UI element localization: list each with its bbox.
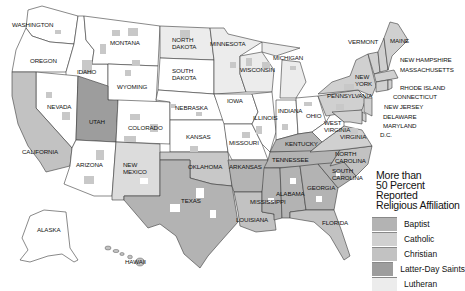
state-label-nevada: NEVADA <box>47 103 72 110</box>
state-label-montana: MONTANA <box>110 39 141 46</box>
state-label-connecticut: CONNECTICUT <box>393 93 437 100</box>
state-label-new-hampshire: NEW HAMPSHIRE <box>400 56 452 63</box>
state-label-rhode-island: RHODE ISLAND <box>400 84 446 91</box>
state-rhode-island <box>388 80 392 90</box>
legend-item-baptist: Baptist <box>372 216 465 231</box>
state-label-idaho: IDAHO <box>77 68 96 75</box>
swatch-christian <box>372 247 397 261</box>
state-arizona <box>64 140 116 196</box>
state-label-oregon: OREGON <box>30 57 57 64</box>
legend-item-lutheran: Lutheran <box>372 276 465 291</box>
state-label-utah: UTAH <box>89 118 105 125</box>
state-label-colorado: COLORADO <box>128 124 163 131</box>
legend-label: Christian <box>404 249 437 259</box>
state-label-louisiana: LOUISIANA <box>236 216 269 223</box>
state-label-arizona: ARIZONA <box>76 161 104 168</box>
state-label-texas: TEXAS <box>181 197 201 204</box>
state-label-alaska: ALASKA <box>37 226 61 233</box>
state-label-washington: WASHINGTON <box>12 21 53 28</box>
legend-label: Lutheran <box>404 279 437 289</box>
state-label-virginia: VIRGINIA <box>340 133 367 140</box>
legend-item-latter-day-saints: Latter-Day Saints <box>372 261 465 276</box>
legend-label: Baptist <box>404 219 430 229</box>
state-label-maine: MAINE <box>390 37 409 44</box>
state-label-georgia: GEORGIA <box>307 184 336 191</box>
state-label-vermont: VERMONT <box>348 38 379 45</box>
state-label-mississippi: MISSISSIPPI <box>250 198 286 205</box>
state-label-maryland: MARYLAND <box>383 122 417 129</box>
state-label-arkansas: ARKANSAS <box>229 163 262 170</box>
legend-label: Latter-Day Saints <box>400 264 465 274</box>
swatch-latter-day-saints <box>372 262 393 276</box>
state-label-wisconsin: WISCONSIN <box>240 66 275 73</box>
state-label-alabama: ALABAMA <box>276 190 306 197</box>
legend-items: Baptist Catholic Christian Latter-Day Sa… <box>372 216 465 291</box>
legend-label: Catholic <box>404 234 434 244</box>
state-label-kentucky: KENTUCKY <box>285 140 318 147</box>
state-label-new-jersey: NEW JERSEY <box>384 103 423 110</box>
state-connecticut <box>376 80 388 92</box>
state-alaska <box>20 210 78 262</box>
state-label-nebraska: NEBRASKA <box>175 104 209 111</box>
state-label-tennessee: TENNESSEE <box>272 156 309 163</box>
state-label-iowa: IOWA <box>227 97 244 104</box>
state-label-d-c-: D.C. <box>380 131 392 138</box>
state-label-ohio: OHIO <box>306 112 322 119</box>
state-label-oklahoma: OKLAHOMA <box>188 163 223 170</box>
swatch-lutheran <box>372 277 397 291</box>
state-label-hawaii: HAWAII <box>125 258 146 265</box>
state-label-illinois: ILLINOIS <box>253 114 278 121</box>
state-label-delaware: DELAWARE <box>383 113 416 120</box>
state-label-indiana: INDIANA <box>278 107 303 114</box>
legend-title-line-3: Religious Affiliation <box>376 200 465 210</box>
swatch-baptist <box>372 217 397 231</box>
state-label-pennsylvania: PENNSYLVANIA <box>327 92 373 99</box>
state-label-california: CALIFORNIA <box>22 148 59 155</box>
legend-title-line-2: 50 Percent Reported <box>376 180 465 200</box>
state-label-missouri: MISSOURI <box>229 139 259 146</box>
state-indiana <box>276 100 298 140</box>
state-label-minnesota: MINNESOTA <box>210 40 246 47</box>
swatch-catholic <box>372 232 397 246</box>
state-delaware <box>362 112 366 122</box>
state-label-michigan: MICHIGAN <box>273 54 303 61</box>
state-florida <box>290 210 350 260</box>
state-label-kansas: KANSAS <box>186 133 211 140</box>
legend-item-christian: Christian <box>372 246 465 261</box>
state-label-florida: FLORIDA <box>322 219 349 226</box>
legend: More than 50 Percent Reported Religious … <box>372 170 465 291</box>
state-label-massachusetts: MASSACHUSETTS <box>400 66 454 73</box>
state-label-wyoming: WYOMING <box>117 83 148 90</box>
legend-title: More than 50 Percent Reported Religious … <box>376 170 465 210</box>
legend-item-catholic: Catholic <box>372 231 465 246</box>
